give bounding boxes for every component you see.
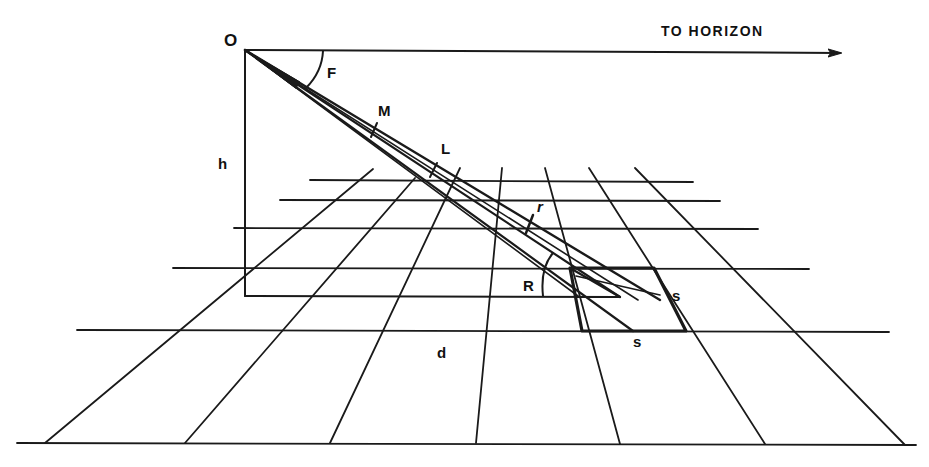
sight-rays bbox=[245, 50, 660, 331]
label-point-l: L bbox=[441, 141, 450, 156]
label-angle-f: F bbox=[327, 65, 336, 80]
label-observer-o: O bbox=[224, 32, 237, 49]
eye-ground-baseline bbox=[245, 296, 620, 297]
square-diagonal bbox=[576, 276, 660, 295]
perspective-diagram: TO HORIZON O F M L h r R s s d bbox=[0, 0, 929, 467]
label-side-s-bottom: s bbox=[633, 334, 641, 349]
label-side-s-right: s bbox=[672, 288, 680, 303]
horizontal-grid-lines bbox=[17, 180, 916, 445]
horizon-arrow bbox=[245, 50, 840, 53]
label-angle-r: R bbox=[523, 278, 534, 293]
label-small-r: r bbox=[537, 199, 543, 214]
label-point-m: M bbox=[378, 103, 391, 118]
angle-f-arc bbox=[306, 51, 323, 88]
diagram-canvas bbox=[0, 0, 929, 467]
label-height-h: h bbox=[218, 156, 227, 171]
horizon-label: TO HORIZON bbox=[661, 24, 764, 38]
label-distance-d: d bbox=[437, 345, 446, 360]
converging-grid-lines bbox=[45, 168, 905, 445]
